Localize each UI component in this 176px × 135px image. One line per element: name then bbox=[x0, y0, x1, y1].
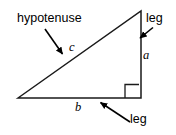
label-side-c: c bbox=[69, 41, 75, 54]
label-side-a: a bbox=[143, 49, 149, 62]
right-angle-marker bbox=[125, 85, 139, 99]
label-hypotenuse: hypotenuse bbox=[17, 12, 82, 25]
right-triangle-diagram: hypotenuse leg leg c a b bbox=[0, 0, 176, 135]
label-leg-top: leg bbox=[146, 12, 163, 25]
leg-bottom-arrow bbox=[101, 103, 131, 123]
leg-top-arrow bbox=[140, 28, 153, 39]
label-leg-bottom: leg bbox=[130, 113, 147, 126]
hypotenuse-arrow bbox=[45, 29, 63, 54]
label-side-b: b bbox=[75, 101, 81, 114]
